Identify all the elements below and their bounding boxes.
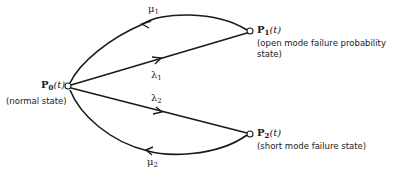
node-p2-circle — [247, 131, 253, 137]
node-p0-circle — [65, 83, 71, 89]
node-p0-description: (normal state) — [6, 96, 67, 107]
node-p1-circle — [247, 28, 253, 34]
rate-mu1-subscript: 1 — [155, 8, 159, 16]
rate-lambda1-label: λ1 — [151, 70, 162, 82]
node-p1-argument: (t) — [269, 24, 281, 35]
node-p2-argument: (t) — [269, 127, 281, 138]
node-p0-symbol: P — [41, 79, 49, 90]
node-p0-label: P0(t) — [41, 80, 65, 91]
rate-lambda2-label: λ2 — [151, 93, 162, 105]
node-p2-description: (short mode failure state) — [257, 141, 366, 152]
node-p1-symbol: P — [257, 24, 265, 35]
rate-lambda1-subscript: 1 — [157, 74, 161, 82]
node-p2-label: P2(t) — [257, 128, 281, 139]
node-p2-symbol: P — [257, 127, 265, 138]
node-p1-description-line1: (open mode failure probability — [257, 38, 386, 49]
rate-mu1-label: μ1 — [148, 4, 159, 16]
rate-mu2-label: μ2 — [147, 157, 158, 169]
node-p1-label: P1(t) — [257, 25, 281, 36]
node-p0-argument: (t) — [53, 79, 65, 90]
node-p1-description-line2: state) — [257, 49, 386, 60]
arrow-mu1-icon — [142, 21, 151, 28]
node-p1-description: (open mode failure probability state) — [257, 38, 386, 60]
rate-lambda2-subscript: 2 — [157, 97, 161, 105]
rate-mu2-subscript: 2 — [154, 161, 158, 169]
